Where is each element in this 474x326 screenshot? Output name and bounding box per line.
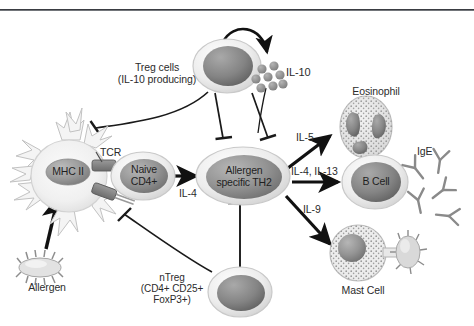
- naive-cd4-label-line2: CD4+: [131, 175, 157, 187]
- il10-to-th2-line: [258, 88, 266, 133]
- th2-label-line1: Allergen: [226, 164, 263, 176]
- inhibition-treg-to-dendritic: [91, 92, 209, 134]
- treg-label: Treg cells (IL-10 producing): [118, 62, 196, 86]
- th2-label-line2: specific TH2: [216, 176, 271, 188]
- naive-cd4-label: Naive CD4+: [131, 164, 157, 187]
- ntreg-label-line3: FoxP3+): [153, 294, 190, 305]
- naive-cd4-label-line1: Naive: [131, 163, 157, 175]
- allergen-particle: [16, 250, 63, 285]
- figure-container: Treg cells (IL-10 producing) IL-10 MHC I…: [0, 0, 474, 326]
- inhibition-ntreg-to-th2: [228, 203, 252, 268]
- th2-label: Allergen specific TH2: [216, 165, 271, 188]
- il4-arrow-label: IL-4: [179, 188, 197, 200]
- inhibition-treg-to-naive: [215, 93, 232, 139]
- il10-label: IL-10: [286, 66, 311, 78]
- ntreg-label-line1: nTreg: [159, 272, 184, 283]
- treg-label-line2: (IL-10 producing): [118, 73, 196, 85]
- eosinophil-cell: [340, 96, 392, 158]
- treg-cell: [193, 39, 261, 93]
- bcell-label: B Cell: [363, 176, 390, 188]
- il4-il13-arrow-label: IL-4, IL-13: [291, 166, 338, 178]
- ige-label: IgE: [417, 146, 432, 158]
- ntreg-label-line2: (CD4+ CD25+: [141, 283, 203, 294]
- tcr-label: TCR: [100, 147, 121, 159]
- diagram-canvas: [0, 0, 474, 326]
- inhibition-ntreg-to-dendritic: [118, 208, 212, 272]
- treg-label-line1: Treg cells: [135, 61, 179, 73]
- il9-arrow-label: IL-9: [303, 204, 321, 216]
- mast-cell: [330, 225, 427, 281]
- allergen-label: Allergen: [28, 282, 66, 294]
- mastcell-label: Mast Cell: [342, 285, 385, 297]
- mhc-ii-label: MHC II: [52, 166, 83, 178]
- il5-arrow-label: IL-5: [296, 132, 314, 144]
- eosinophil-label: Eosinophil: [352, 86, 399, 98]
- ntreg-cell: [208, 267, 272, 317]
- ntreg-label: nTreg (CD4+ CD25+ FoxP3+): [141, 272, 203, 306]
- ige-antibodies: [403, 149, 460, 225]
